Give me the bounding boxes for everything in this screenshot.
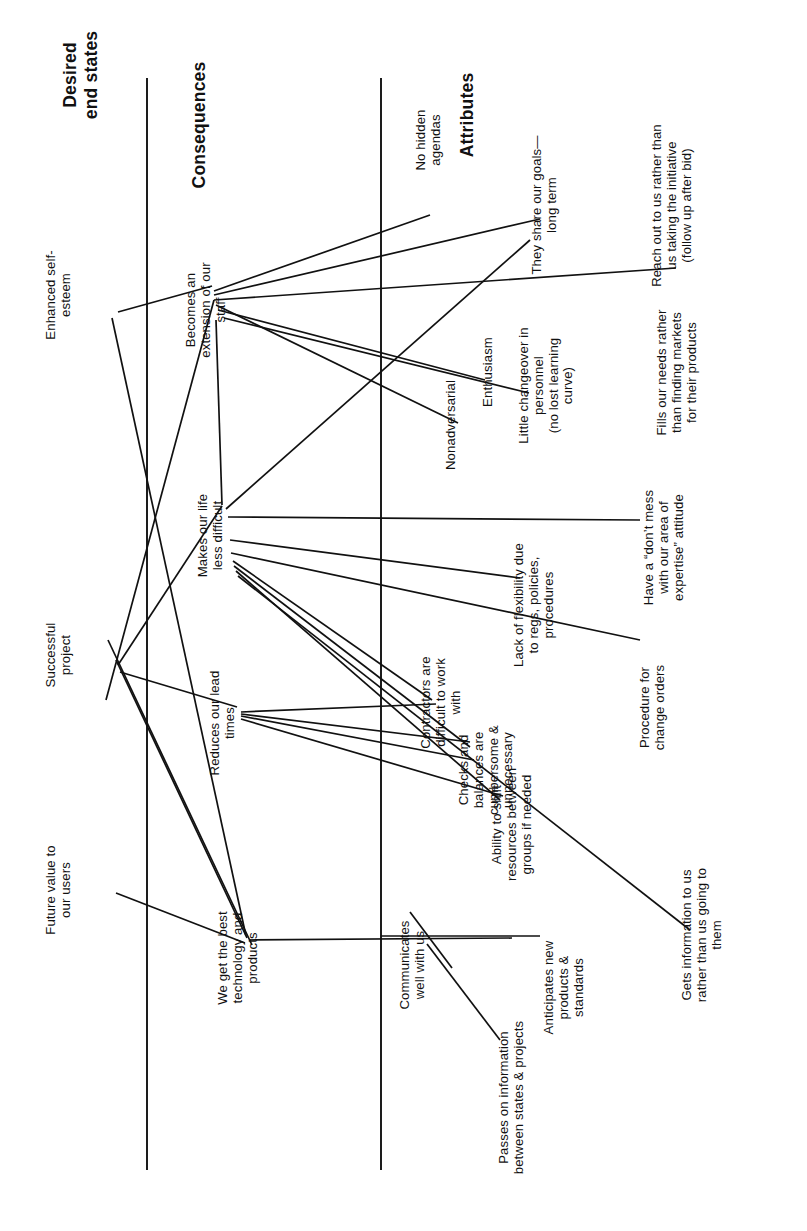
node-anticipates-new-products-and-standards[interactable]: Anticipates new products & standards [542,910,586,1065]
column-header-desired-end-states: Desired end states [60,10,103,140]
column-header-consequences: Consequences [189,30,210,220]
node-makes-our-life-less-difficult[interactable]: Makes our life less difficult [196,458,226,613]
node-procedure-for-change-orders[interactable]: Procedure for change orders [638,625,668,790]
node-dont-mess-with-our-area-of-expertise[interactable]: Have a “don’t mess with our area of expe… [642,455,686,640]
node-reduces-our-lead-times[interactable]: Reduces our lead times [208,633,238,813]
node-no-hidden-agendas[interactable]: No hidden agendas [414,75,444,205]
link-reach-out [214,268,676,300]
link-share-goals [214,219,540,295]
column-header-attributes: Attributes [457,45,478,185]
node-passes-on-information[interactable]: Passes on information between states & p… [497,990,527,1205]
node-we-get-the-best-technology-and-products[interactable]: We get the best technology and products [216,868,260,1048]
node-communicates-well-with-us[interactable]: Communicates well with us [398,890,428,1040]
node-ability-to-shift-resources[interactable]: Ability to shift resources between group… [490,742,534,907]
link-anticipates-new-products [249,938,512,940]
link-lack-flexibility [230,540,520,578]
node-enhanced-self-esteem[interactable]: Enhanced self- esteem [44,210,74,380]
link-contractors-diff [233,561,432,700]
node-little-changeover-in-personnel[interactable]: Little changeover in personnel (no lost … [517,293,576,478]
node-they-share-our-goals-long-term[interactable]: They share our goals— long term [530,110,560,300]
link-passes-on-information [427,944,500,1040]
node-fills-our-needs[interactable]: Fills our needs rather than finding mark… [655,275,699,470]
node-future-value-to-our-users[interactable]: Future value to our users [44,805,74,975]
node-gets-information-to-us[interactable]: Gets information to us rather than us go… [680,835,724,1035]
link-dont-mess [228,517,640,520]
value-map-canvas: Desired end states Consequences Attribut… [0,0,807,1231]
node-lack-of-flexibility[interactable]: Lack of flexibility due to regs, policie… [512,510,556,700]
node-nonadversarial[interactable]: Nonadversarial [444,360,459,490]
node-enthusiasm[interactable]: Enthusiasm [481,312,496,432]
link-besttech-to-selfesteem [112,318,246,936]
node-successful-project[interactable]: Successful project [44,580,74,730]
node-becomes-an-extension-of-our-staff[interactable]: Becomes an extension of our staff [184,220,228,400]
